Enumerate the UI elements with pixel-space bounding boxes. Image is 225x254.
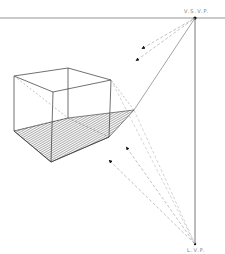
diagram-drawing	[0, 0, 225, 254]
lvp-label: L.V.P.	[187, 247, 206, 253]
perspective-diagram: V.S.V.P. L.V.P.	[0, 0, 225, 254]
vsvp-label: V.S.V.P.	[184, 8, 209, 14]
inclined-plane	[14, 110, 134, 162]
